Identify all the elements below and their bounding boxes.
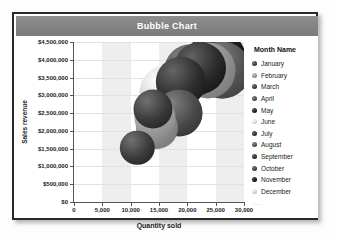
y-tick xyxy=(70,184,74,185)
legend-item-label: February xyxy=(261,72,287,79)
legend-item-label: July xyxy=(261,130,273,137)
legend-item[interactable]: June xyxy=(252,116,318,128)
legend-item[interactable]: September xyxy=(252,151,318,163)
legend-item-label: October xyxy=(261,165,284,172)
legend-swatch-icon xyxy=(252,96,257,101)
legend-swatch-icon xyxy=(252,131,257,136)
legend-swatch-icon xyxy=(252,177,257,182)
screenshot-root: Bubble Chart Sales revenue Quantity sold… xyxy=(0,0,337,240)
legend-swatch-icon xyxy=(252,154,257,159)
y-tick xyxy=(70,166,74,167)
legend-item-label: June xyxy=(261,118,275,125)
y-tick xyxy=(70,113,74,114)
x-tick-label: 10,000 xyxy=(121,207,139,213)
x-tick xyxy=(216,202,217,206)
legend-item[interactable]: November xyxy=(252,174,318,186)
bubble-point[interactable] xyxy=(133,89,172,128)
y-tick-label: $2,500,000 xyxy=(38,110,68,116)
x-tick xyxy=(244,202,245,206)
legend-item[interactable]: October xyxy=(252,162,318,174)
x-axis-title: Quantity sold xyxy=(137,222,182,229)
legend-swatch-icon xyxy=(252,84,257,89)
y-tick-label: $1,500,000 xyxy=(38,146,68,152)
x-tick-label: 5,000 xyxy=(95,207,110,213)
legend-item-label: May xyxy=(261,107,273,114)
legend-item-label: January xyxy=(261,60,284,67)
y-axis-line xyxy=(73,42,74,202)
x-tick-label: 30,000 xyxy=(235,207,253,213)
legend-swatch-icon xyxy=(252,142,257,147)
plot-canvas xyxy=(74,42,244,202)
chart-frame: Bubble Chart Sales revenue Quantity sold… xyxy=(12,12,318,220)
y-tick-label: $1,000,000 xyxy=(38,163,68,169)
legend-item-list: JanuaryFebruaryMarchAprilMayJuneJulyAugu… xyxy=(252,58,318,197)
x-tick-label: 15,000 xyxy=(150,207,168,213)
legend-item[interactable]: April xyxy=(252,93,318,105)
x-tick-label: 25,000 xyxy=(206,207,224,213)
y-tick xyxy=(70,131,74,132)
y-tick xyxy=(70,42,74,43)
legend-item-label: August xyxy=(261,141,281,148)
legend-item[interactable]: December xyxy=(252,186,318,198)
y-tick-label: $3,500,000 xyxy=(38,75,68,81)
legend-swatch-icon xyxy=(252,73,257,78)
legend-item[interactable]: July xyxy=(252,128,318,140)
y-tick-label: $3,000,000 xyxy=(38,92,68,98)
legend-item[interactable]: March xyxy=(252,81,318,93)
legend-swatch-icon xyxy=(252,61,257,66)
legend-swatch-icon xyxy=(252,119,257,124)
y-tick-label: $4,500,000 xyxy=(38,39,68,45)
x-tick xyxy=(102,202,103,206)
legend-swatch-icon xyxy=(252,189,257,194)
legend-item[interactable]: May xyxy=(252,104,318,116)
y-tick-label: $2,000,000 xyxy=(38,128,68,134)
gridline-horizontal xyxy=(74,166,244,167)
legend-swatch-icon xyxy=(252,108,257,113)
legend-item-label: September xyxy=(261,153,293,160)
x-tick xyxy=(187,202,188,206)
y-tick-label: $0 xyxy=(61,199,68,205)
x-tick-label: 0 xyxy=(72,207,75,213)
y-tick-label: $4,000,000 xyxy=(38,57,68,63)
x-tick-label: 20,000 xyxy=(178,207,196,213)
y-tick-label: $500,000 xyxy=(43,181,68,187)
gridline-horizontal xyxy=(74,184,244,185)
y-tick xyxy=(70,95,74,96)
x-tick xyxy=(131,202,132,206)
x-tick xyxy=(74,202,75,206)
legend-item[interactable]: January xyxy=(252,58,318,70)
legend-item-label: November xyxy=(261,176,291,183)
y-tick xyxy=(70,60,74,61)
legend-item[interactable]: February xyxy=(252,70,318,82)
y-axis-title: Sales revenue xyxy=(21,100,28,144)
legend-swatch-icon xyxy=(252,166,257,171)
legend-title: Month Name xyxy=(254,46,318,53)
x-tick xyxy=(159,202,160,206)
legend-item-label: April xyxy=(261,95,274,102)
legend-item-label: March xyxy=(261,83,279,90)
bubble-point[interactable] xyxy=(120,131,154,165)
y-tick xyxy=(70,149,74,150)
legend: Month Name JanuaryFebruaryMarchAprilMayJ… xyxy=(252,46,318,206)
chart-body: Sales revenue Quantity sold $0$500,000$1… xyxy=(16,36,318,218)
y-tick xyxy=(70,78,74,79)
plot-band xyxy=(102,42,130,202)
chart-title: Bubble Chart xyxy=(16,16,318,36)
legend-more-indicator: ... xyxy=(254,200,318,206)
chart-title-bar: Bubble Chart xyxy=(16,16,318,37)
plot-area: $0$500,000$1,000,000$1,500,000$2,000,000… xyxy=(74,42,244,202)
legend-item-label: December xyxy=(261,188,291,195)
legend-item[interactable]: August xyxy=(252,139,318,151)
